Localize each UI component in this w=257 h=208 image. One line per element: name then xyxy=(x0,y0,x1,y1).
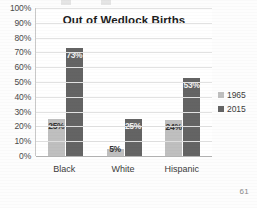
legend-label: 2015 xyxy=(227,105,246,114)
bar-value-label: 24% xyxy=(166,123,182,132)
gridline xyxy=(36,82,212,83)
y-axis-tick-label: 80% xyxy=(15,33,31,42)
y-axis-tick-label: 70% xyxy=(15,48,31,57)
y-axis-tick-label: 60% xyxy=(15,63,31,72)
plot-area: Out of Wedlock Births 25%73%5%25%24%53% xyxy=(35,8,212,156)
y-axis-tick-label: 40% xyxy=(15,92,31,101)
legend-swatch-icon xyxy=(218,106,224,112)
legend-label: 1965 xyxy=(227,91,246,100)
x-axis-category-label: Black xyxy=(53,164,75,175)
y-axis-tick-label: 90% xyxy=(15,18,31,27)
gridline xyxy=(36,126,212,127)
gridline xyxy=(36,97,212,98)
bar-chart: 100%90%80%70%60%50%40%30%20%10%0% Out of… xyxy=(0,8,215,186)
legend-swatch-icon xyxy=(218,92,224,98)
y-axis-tick-label: 10% xyxy=(15,137,31,146)
gridline xyxy=(36,38,212,39)
bar-value-label: 5% xyxy=(109,145,121,154)
x-axis-category-labels: BlackWhiteHispanic xyxy=(35,164,211,180)
legend-item[interactable]: 1965 xyxy=(218,88,257,102)
scanned-page: 100%90%80%70%60%50%40%30%20%10%0% Out of… xyxy=(0,0,257,208)
x-axis-category-label: Hispanic xyxy=(164,164,199,175)
y-axis-tick-label: 50% xyxy=(15,78,31,87)
gridline xyxy=(36,23,212,24)
gridline xyxy=(36,141,212,142)
scan-bleed-artifact xyxy=(55,0,175,5)
page-number: 61 xyxy=(240,187,250,196)
y-axis-tick-label: 100% xyxy=(10,4,31,13)
y-axis: 100%90%80%70%60%50%40%30%20%10%0% xyxy=(0,8,33,156)
gridline xyxy=(36,67,212,68)
bar[interactable] xyxy=(66,48,83,156)
gridline xyxy=(36,52,212,53)
legend-item[interactable]: 2015 xyxy=(218,102,257,116)
y-axis-tick-label: 0% xyxy=(19,152,31,161)
y-axis-tick-label: 20% xyxy=(15,122,31,131)
x-axis-baseline xyxy=(36,156,212,157)
y-axis-tick-label: 30% xyxy=(15,107,31,116)
gridline xyxy=(36,112,212,113)
x-axis-category-label: White xyxy=(111,164,134,175)
gridline xyxy=(36,8,212,9)
chart-legend: 19652015 xyxy=(218,88,257,116)
